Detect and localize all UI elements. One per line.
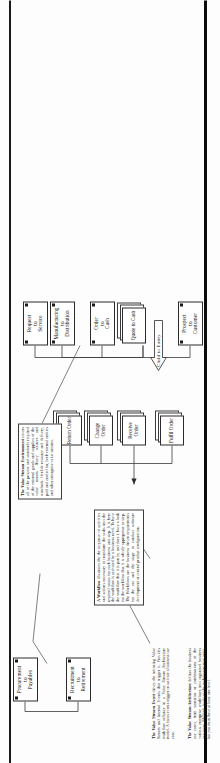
node-label: Request to Service <box>27 314 45 331</box>
note-body: covers all of the process and standards … <box>20 427 54 496</box>
block-arrow-label: Child to Entity <box>150 319 167 371</box>
node-label: Recruitment to Retirement <box>70 666 88 693</box>
note-value-stream-architecture: The Value Stream Architecture defines th… <box>186 645 218 741</box>
block-arrow-child-to-entity[interactable]: Child to Entity <box>150 319 167 371</box>
node-change-order[interactable]: Change Order <box>89 415 113 445</box>
node-prospect-to-customer[interactable]: Prospect to Customer <box>178 301 203 345</box>
note-workflow: A Workflow illustrates the the sequence … <box>94 509 144 605</box>
node-label: Procurement to Payables <box>17 665 35 693</box>
note-value-stream-event: The Value Stream Event drives the initia… <box>150 645 184 741</box>
node-recruitment-to-retirement[interactable]: Recruitment to Retirement <box>66 657 91 701</box>
node-fulfil-order[interactable]: Fulfil Order <box>160 415 184 445</box>
stack-front: Receive Order <box>122 415 146 445</box>
node-label: Fulfil Order <box>169 418 175 443</box>
note-value-stream-environment: The Value Stream Environment covers all … <box>18 423 62 499</box>
stack-front: Change Order <box>89 415 113 445</box>
stack-front: Quote to Cash <box>122 307 146 343</box>
node-label: Quote to Cash <box>131 310 137 340</box>
node-quote-to-cash[interactable]: Quote to Cash <box>122 307 146 343</box>
stack-front: Fulfil Order <box>160 415 184 445</box>
node-label: Prospect to Customer <box>182 313 200 334</box>
node-label: Change Order <box>95 416 107 444</box>
diagram-canvas: Procurement to Payables Recruitment to R… <box>0 0 220 763</box>
node-label: Manufacturing to Distribution <box>54 307 72 339</box>
node-order-to-cash[interactable]: Order to Cash <box>90 301 115 345</box>
node-receive-order[interactable]: Receive Order <box>122 415 146 445</box>
node-label: Receive Order <box>128 416 140 444</box>
node-procurement-to-payables[interactable]: Procurement to Payables <box>13 657 38 701</box>
diagram-page: Procurement to Payables Recruitment to R… <box>0 0 220 763</box>
node-manufacturing-to-distribution[interactable]: Manufacturing to Distribution <box>50 301 75 345</box>
node-label: Order to Cash <box>94 317 112 330</box>
node-request-to-service[interactable]: Request to Service <box>23 301 48 345</box>
flow-arrowhead <box>131 478 136 484</box>
node-label: Return Order <box>67 416 73 444</box>
note-body: illustrates the the sequence of activiti… <box>96 513 140 602</box>
